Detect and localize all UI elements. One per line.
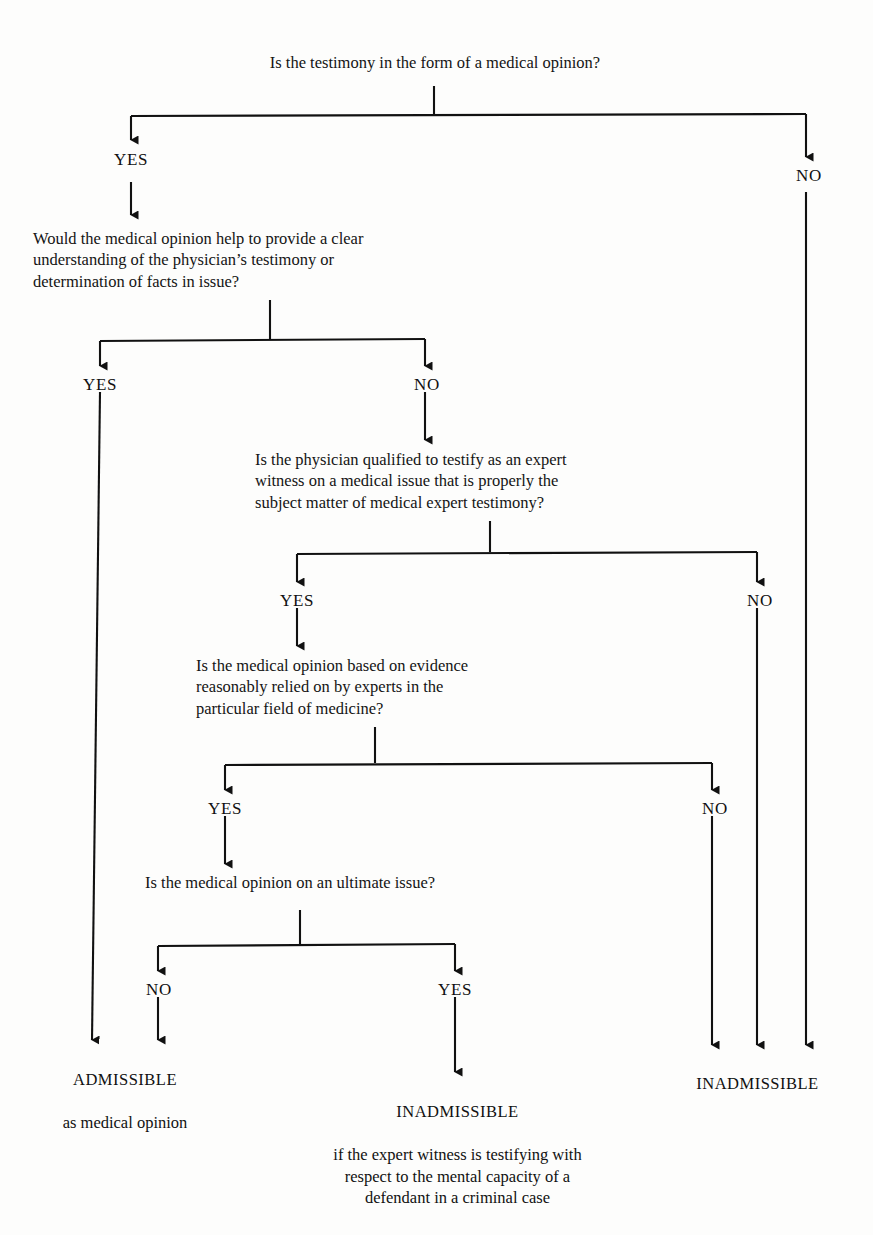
branch-label-q3-no: NO <box>725 591 795 611</box>
outcome-inadmissible-center-heading: INADMISSIBLE <box>265 1101 650 1122</box>
branch-label-q5-yes: YES <box>420 980 490 1000</box>
question-1: Is the testimony in the form of a medica… <box>210 52 660 73</box>
outcome-admissible-heading: ADMISSIBLE <box>10 1069 240 1090</box>
branch-label-q1-no: NO <box>774 166 844 186</box>
outcome-inadmissible-right: INADMISSIBLE <box>650 1052 865 1116</box>
q2-yes-long <box>92 392 100 1040</box>
q4-bar <box>225 763 712 765</box>
q5-bar <box>158 944 455 946</box>
outcome-inadmissible-center-detail: if the expert witness is testifying with… <box>265 1144 650 1208</box>
branch-label-q2-no: NO <box>392 375 462 395</box>
branch-label-q1-yes: YES <box>96 150 166 170</box>
q2-bar <box>100 339 425 341</box>
outcome-inadmissible-center: INADMISSIBLE if the expert witness is te… <box>265 1080 650 1230</box>
branch-label-q4-yes: YES <box>190 799 260 819</box>
question-3: Is the physician qualified to testify as… <box>255 449 675 513</box>
branch-label-q3-yes: YES <box>262 591 332 611</box>
branch-label-q5-no: NO <box>124 980 194 1000</box>
outcome-inadmissible-right-heading: INADMISSIBLE <box>650 1073 865 1094</box>
question-5: Is the medical opinion on an ultimate is… <box>145 872 545 893</box>
outcome-admissible: ADMISSIBLE as medical opinion <box>10 1048 240 1155</box>
question-4: Is the medical opinion based on evidence… <box>196 655 576 719</box>
flowchart-page: Is the testimony in the form of a medica… <box>0 0 873 1235</box>
q1-bar <box>131 114 806 116</box>
branch-label-q2-yes: YES <box>65 375 135 395</box>
q3-bar <box>297 552 757 554</box>
branch-label-q4-no: NO <box>680 799 750 819</box>
question-2: Would the medical opinion help to provid… <box>33 228 433 292</box>
outcome-admissible-detail: as medical opinion <box>10 1112 240 1133</box>
